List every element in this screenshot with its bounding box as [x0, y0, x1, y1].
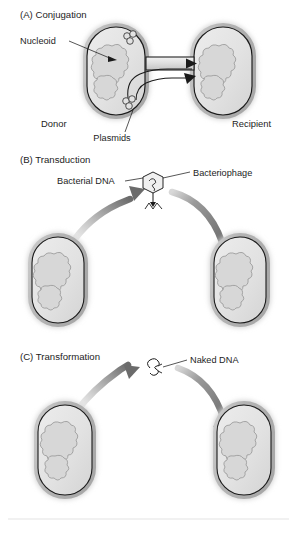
- plasmids-label: Plasmids: [93, 133, 131, 143]
- transformation-recipient-cell: [212, 400, 276, 500]
- panel-heading-transduction: (B) Transduction: [20, 154, 90, 165]
- bacterial-dna-label: Bacterial DNA: [57, 176, 116, 186]
- bacteriophage-label: Bacteriophage: [193, 168, 252, 178]
- recipient-nucleoid-lower-lobe: [201, 75, 225, 100]
- naked-dna-label: Naked DNA: [190, 355, 239, 365]
- transduction-recipient-cell: [209, 232, 271, 328]
- transformation-recipient-nucleoid-lower: [224, 455, 248, 480]
- bacterial-gene-transfer-figure: (A) Conjugation: [0, 0, 297, 536]
- panel-heading-transformation: (C) Transformation: [20, 351, 100, 362]
- panel-heading-conjugation: (A) Conjugation: [20, 9, 87, 20]
- donor-nucleoid-lower-lobe: [94, 75, 118, 100]
- nucleoid-label: Nucleoid: [20, 36, 56, 46]
- transformation-donor-cell: [33, 400, 97, 500]
- transduction-donor-nucleoid-lower: [38, 285, 62, 310]
- transduction-recipient-nucleoid-lower: [220, 285, 244, 310]
- transformation-donor-nucleoid-lower: [45, 455, 69, 480]
- donor-label: Donor: [41, 118, 67, 129]
- phage-capsid: [143, 172, 163, 193]
- recipient-cell: [189, 22, 257, 120]
- recipient-label: Recipient: [232, 118, 271, 129]
- donor-cell: [82, 22, 150, 120]
- transduction-donor-cell: [27, 232, 89, 328]
